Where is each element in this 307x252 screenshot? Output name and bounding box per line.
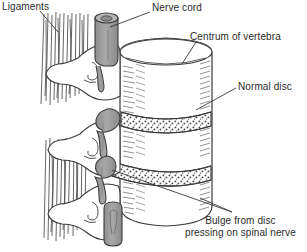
- label-bulge: Bulge from disc pressing on spinal nerve: [185, 215, 296, 238]
- centrum-top-rim: [120, 39, 212, 65]
- label-nerve-cord: Nerve cord: [152, 2, 202, 14]
- nerve-cord-canal: [101, 16, 112, 21]
- nerve-stub-bottom: [104, 202, 122, 246]
- label-ligaments: Ligaments: [2, 1, 49, 13]
- label-bulge-line2: pressing on spinal nerve: [185, 227, 296, 239]
- leader-ligaments: [40, 11, 58, 32]
- label-normal-disc: Normal disc: [238, 81, 292, 93]
- vertebral-column-body: [107, 38, 212, 226]
- label-centrum: Centrum of vertebra: [190, 31, 281, 43]
- label-bulge-line1: Bulge from disc: [185, 215, 296, 227]
- anatomy-figure: Ligaments Nerve cord Centrum of vertebra…: [0, 0, 307, 252]
